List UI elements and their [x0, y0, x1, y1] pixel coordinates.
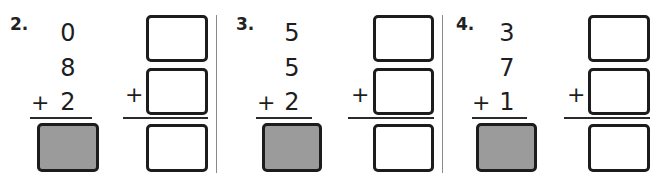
- regroup-sum-line: [564, 117, 650, 119]
- problem-4: 4. 3 7 + 1 +: [0, 0, 671, 192]
- addend-3: 1: [492, 90, 522, 114]
- addend-1: 3: [492, 21, 522, 45]
- addend-2: 7: [492, 56, 522, 80]
- plus-sign: +: [567, 84, 585, 106]
- regroup-box-answer[interactable]: [588, 124, 650, 172]
- regroup-box-top[interactable]: [588, 15, 650, 62]
- sum-line: [472, 117, 527, 119]
- answer-box[interactable]: [476, 123, 537, 172]
- plus-sign: +: [472, 92, 490, 114]
- problem-number: 4.: [456, 14, 474, 34]
- regroup-box-middle[interactable]: [588, 68, 650, 115]
